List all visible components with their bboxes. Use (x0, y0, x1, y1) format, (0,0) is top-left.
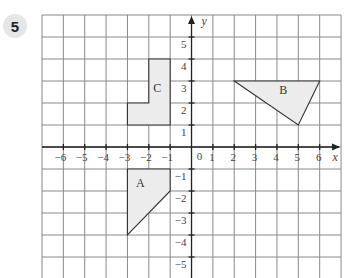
y-tick-label: −1 (175, 170, 187, 182)
y-axis-label: y (201, 14, 208, 28)
x-axis-label: x (331, 150, 338, 164)
y-tick-label: 1 (181, 126, 187, 138)
shape-c (127, 59, 170, 125)
x-tick-label: −4 (97, 151, 109, 163)
shape-label-c: C (153, 81, 161, 95)
x-tick-label: 4 (273, 151, 279, 163)
y-tick-label: 4 (181, 60, 187, 72)
y-tick-label: −5 (175, 258, 187, 270)
x-tick-label: −2 (140, 151, 152, 163)
y-tick-label: 3 (181, 82, 187, 94)
axes (42, 16, 340, 278)
origin-label: 0 (197, 150, 203, 162)
y-tick-label: −2 (175, 192, 187, 204)
shape-label-b: B (279, 83, 287, 97)
y-axis-arrow-icon (188, 16, 195, 24)
y-tick-label: −3 (175, 214, 187, 226)
y-tick-label: 5 (181, 38, 187, 50)
y-tick-label: −4 (175, 236, 187, 248)
shape-label-a: A (136, 176, 145, 190)
x-tick-label: −1 (161, 151, 173, 163)
x-tick-label: 2 (230, 151, 236, 163)
y-tick-label: 2 (181, 104, 187, 116)
x-tick-label: −3 (119, 151, 131, 163)
x-tick-label: 6 (316, 151, 322, 163)
x-tick-label: 5 (295, 151, 301, 163)
x-tick-label: 1 (209, 151, 215, 163)
x-tick-label: −6 (55, 151, 67, 163)
x-tick-label: −5 (76, 151, 88, 163)
coordinate-grid: ABC −6−5−4−3−2−112345654321−1−2−3−4−50xy (0, 0, 346, 278)
tick-labels: −6−5−4−3−2−112345654321−1−2−3−4−50xy (55, 14, 339, 270)
x-tick-label: 3 (252, 151, 258, 163)
